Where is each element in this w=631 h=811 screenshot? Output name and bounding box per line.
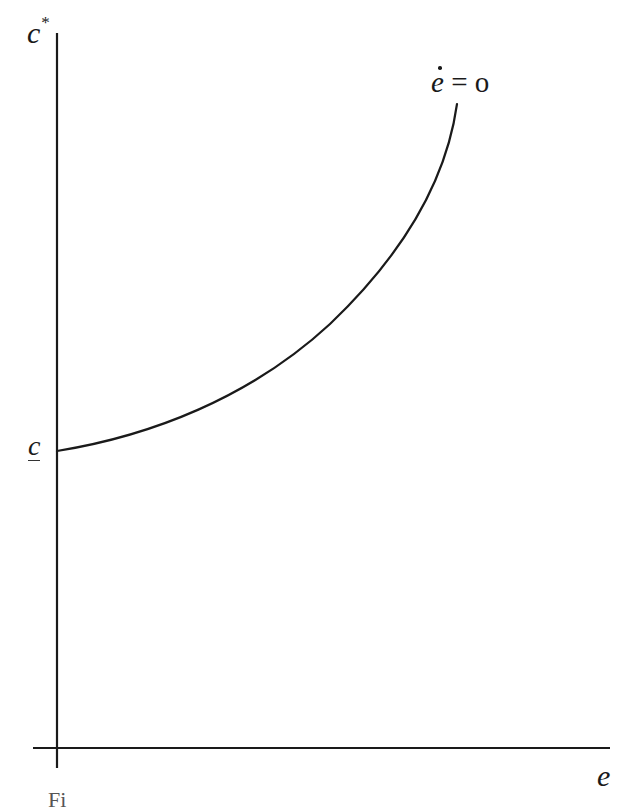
- c-underbar-label: c: [28, 434, 40, 461]
- y-intercept-label: c: [28, 432, 40, 461]
- x-axis-label: e: [597, 761, 610, 791]
- figure-caption-fragment: Fi: [48, 789, 66, 811]
- curve-label: e = o: [431, 68, 489, 97]
- curve-label-var: e: [431, 68, 444, 97]
- y-axis-label-superscript: *: [41, 13, 50, 32]
- y-axis-label-var: c: [27, 16, 40, 49]
- y-axis-label: c*: [27, 18, 50, 48]
- curve-label-equation: = o: [444, 66, 489, 98]
- e-dot-zero-curve: [57, 104, 457, 451]
